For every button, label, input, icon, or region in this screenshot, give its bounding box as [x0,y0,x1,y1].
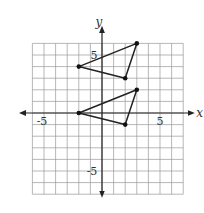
vertex-point [135,41,140,46]
vertex-point [123,76,128,81]
y-axis-label: y [95,15,103,29]
x-axis-label: x [196,106,203,120]
lower-triangle [79,90,137,125]
vertex-point [77,64,82,69]
coordinate-plane: x y -5 5 5 -5 [0,0,204,213]
vertex-point [123,122,128,127]
vertex-point [135,88,140,93]
y-tick-neg5: -5 [87,165,98,178]
y-tick-pos5: 5 [91,49,98,62]
x-tick-neg5: -5 [37,115,48,128]
upper-triangle [79,43,137,78]
triangles [77,41,140,127]
vertex-point [77,111,82,116]
x-tick-pos5: 5 [157,115,164,128]
